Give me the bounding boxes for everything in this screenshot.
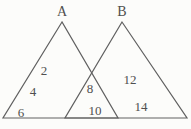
overlapping-triangles-diagram: A B 2 4 6 8 10 12 14 [0,0,191,129]
a-only-value-2: 6 [18,106,25,119]
a-only-value-1: 4 [30,85,37,98]
triangle-a-label: A [57,5,67,19]
intersection-value-1: 10 [89,104,102,117]
triangle-b-label: B [117,5,126,19]
intersection-value-0: 8 [87,82,94,95]
triangle-b-shape [65,22,187,118]
b-only-value-0: 12 [124,73,137,86]
b-only-value-1: 14 [135,100,148,113]
a-only-value-0: 2 [41,64,48,77]
